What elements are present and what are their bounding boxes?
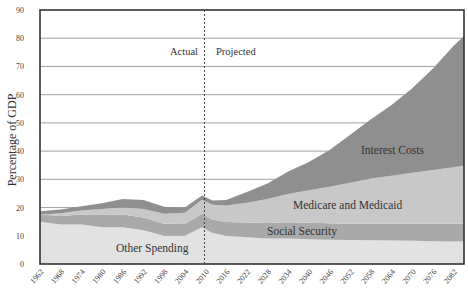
other-spending-label: Other Spending bbox=[116, 242, 189, 255]
x-tick-label: 2022 bbox=[235, 268, 252, 286]
social-security-label: Social Security bbox=[267, 225, 337, 238]
y-tick-label: 20 bbox=[16, 204, 24, 213]
x-tick-label: 2082 bbox=[442, 268, 459, 286]
x-tick-label: 2004 bbox=[173, 268, 190, 286]
x-tick-label: 1986 bbox=[111, 268, 128, 286]
x-tick-label: 2040 bbox=[297, 268, 314, 286]
x-tick-label: 1968 bbox=[49, 268, 66, 286]
y-tick-label: 10 bbox=[16, 232, 24, 241]
x-tick-label: 2064 bbox=[380, 268, 397, 286]
x-tick-label: 1962 bbox=[28, 268, 45, 286]
x-tick-label: 1998 bbox=[152, 268, 169, 286]
stacked-area-chart: 0102030405060708090 19621968197419801986… bbox=[0, 0, 468, 295]
x-tick-label: 2076 bbox=[421, 268, 438, 286]
x-tick-label: 1992 bbox=[132, 268, 149, 286]
y-tick-label: 70 bbox=[16, 62, 24, 71]
x-tick-label: 1980 bbox=[90, 268, 107, 286]
y-tick-label: 90 bbox=[16, 6, 24, 15]
y-tick-label: 0 bbox=[20, 260, 24, 269]
x-tick-label: 2010 bbox=[194, 268, 211, 286]
x-axis-ticks: 1962196819741980198619921998200420102016… bbox=[28, 268, 459, 286]
x-tick-label: 1974 bbox=[70, 268, 87, 286]
actual-label: Actual bbox=[170, 46, 198, 57]
x-tick-label: 2034 bbox=[277, 268, 294, 286]
y-axis-label: Percentage of GDP bbox=[5, 93, 19, 186]
y-tick-label: 80 bbox=[16, 34, 24, 43]
x-tick-label: 2058 bbox=[359, 268, 376, 286]
medicare-medicaid-label: Medicare and Medicaid bbox=[293, 199, 402, 211]
x-tick-label: 2070 bbox=[401, 268, 418, 286]
x-tick-label: 2046 bbox=[318, 268, 335, 286]
x-tick-label: 2028 bbox=[256, 268, 273, 286]
projected-label: Projected bbox=[216, 46, 256, 57]
x-tick-label: 2016 bbox=[214, 268, 231, 286]
x-tick-label: 2052 bbox=[339, 268, 356, 286]
interest-costs-label: Interest Costs bbox=[361, 144, 424, 156]
